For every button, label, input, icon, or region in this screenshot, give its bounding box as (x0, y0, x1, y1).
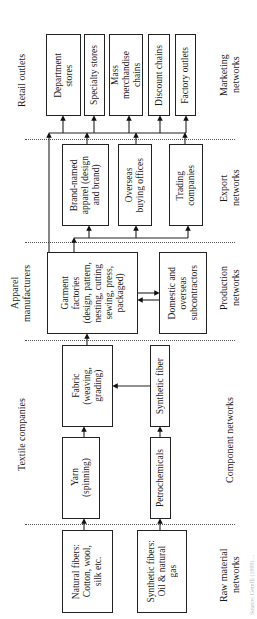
network-label-component: Component networks (218, 380, 242, 500)
tier-label-retail-outlets: Retail outlets (10, 40, 34, 120)
box-garment-factories: Garment factories (design, pattern, nest… (47, 252, 138, 334)
box-petrochemicals: Petrochemicals (150, 437, 171, 519)
box-text: Mass merchandise chains (110, 51, 143, 99)
box-discount-chains: Discount chains (148, 34, 170, 116)
network-label-production: Production networks (214, 255, 246, 321)
box-synthetic-fibers: Synthetic fibers: Oil & natural gas (137, 530, 187, 613)
box-text: Natural fibers: Cotton, wool, silk etc. (71, 544, 104, 599)
box-text: Department stores (53, 53, 75, 98)
box-text: Factory outlets (180, 47, 191, 104)
box-brand-named-apparel: Brand-named apparel (design and brand) (62, 144, 109, 226)
box-text: Garment factories (design, pattern, nest… (60, 262, 126, 323)
network-label-export: Export networks (214, 160, 246, 216)
box-overseas-buying-offices: Overseas buying offices (118, 144, 152, 226)
box-trading-companies: Trading companies (169, 144, 203, 226)
network-label-marketing: Marketing networks (214, 40, 246, 110)
box-text: Fabric (weaving, grading) (71, 367, 104, 405)
box-yarn: Yarn (spinning) (62, 437, 100, 519)
box-mass-merchandise-chains: Mass merchandise chains (109, 34, 143, 116)
box-fabric: Fabric (weaving, grading) (62, 345, 113, 427)
box-department-stores: Department stores (46, 34, 81, 116)
box-text: Petrochemicals (155, 449, 166, 507)
box-specialty-stores: Specialty stores (84, 34, 105, 116)
apparel-commodity-chain-diagram: Retail outlets Apparel manufacturers Tex… (0, 0, 257, 619)
box-text: Yarn (spinning) (70, 458, 92, 497)
tier-label-textile-companies: Textile companies (10, 380, 34, 490)
box-text: Brand-named apparel (design and brand) (69, 156, 102, 214)
box-synthetic-fiber: Synthetic fiber (150, 345, 170, 427)
box-text: Synthetic fibers: Oil & natural gas (146, 540, 179, 603)
network-label-raw-material: Raw material networks (214, 540, 246, 610)
tier-label-apparel-manufacturers: Apparel manufacturers (6, 252, 36, 334)
box-text: Trading companies (175, 165, 197, 206)
box-factory-outlets: Factory outlets (175, 34, 196, 116)
box-text: Specialty stores (89, 45, 100, 105)
box-text: Synthetic fiber (155, 358, 166, 414)
box-text: Overseas buying offices (124, 158, 146, 212)
box-natural-fibers: Natural fibers: Cotton, wool, silk etc. (62, 530, 113, 613)
box-text: Domestic and overseas subcontractors (167, 265, 200, 320)
box-subcontractors: Domestic and overseas subcontractors (159, 252, 207, 334)
source-note: Source: Gereffi (1999) ... (249, 420, 255, 615)
box-text: Discount chains (154, 45, 165, 106)
